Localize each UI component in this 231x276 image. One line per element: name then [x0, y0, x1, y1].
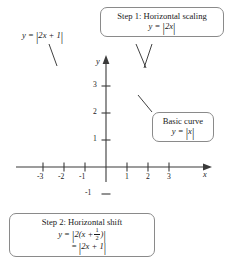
- step-2-equation-second-expr: 2x + 1: [81, 241, 104, 251]
- figure-canvas: x y -3 -2 -1 1 2 3 3 2 1 -1 y = |2x + 1|…: [0, 0, 231, 276]
- x-tick-label-2: 2: [146, 172, 150, 181]
- abs-bar-close-icon: |: [104, 244, 106, 253]
- abs-bar-close-icon: |: [192, 129, 194, 138]
- y-tick-label-neg1: -1: [85, 188, 91, 197]
- basic-curve-equation: y = |x|: [157, 126, 209, 137]
- abs-bar-close-icon: |: [103, 232, 105, 241]
- step-2-equation-prefix: 2(x +: [74, 229, 93, 239]
- x-tick-label-neg1: -1: [79, 172, 85, 181]
- basic-curve-callout[interactable]: Basic curve y = |x|: [152, 112, 214, 142]
- abs-bar-close-icon: |: [61, 33, 63, 42]
- basic-curve-caption: Basic curve: [157, 116, 209, 126]
- x-tick-label-3: 3: [167, 172, 171, 181]
- x-tick-label-1: 1: [125, 172, 129, 181]
- y-equals-abs-2x-plus-1-label: y = |2x + 1|: [22, 30, 63, 41]
- leader-line-left-label: [49, 44, 57, 66]
- y-tick-label-1: 1: [93, 134, 97, 143]
- basic-curve-equation-lhs: y =: [172, 126, 184, 136]
- one-half-fraction: 12: [94, 227, 99, 241]
- y-tick-label-3: 3: [93, 80, 97, 89]
- x-axis: [16, 164, 212, 171]
- step-1-equation: y = |2x|: [105, 21, 219, 32]
- y-axis-label: y: [96, 57, 100, 66]
- y-axis: [103, 55, 110, 182]
- step-2-equation-second-lhs: =: [72, 241, 77, 251]
- x-axis-label: x: [203, 170, 207, 179]
- abs-bar-close-icon: |: [173, 24, 175, 33]
- left-label-lhs: y =: [22, 30, 34, 40]
- step-1-caption: Step 1: Horizontal scaling: [105, 11, 219, 21]
- step-1-horizontal-scaling-callout[interactable]: Step 1: Horizontal scaling y = |2x|: [100, 7, 224, 37]
- step-2-horizontal-shift-callout[interactable]: Step 2: Horizontal shift y = |2(x +12)| …: [9, 213, 155, 257]
- step-2-caption: Step 2: Horizontal shift: [14, 217, 150, 227]
- x-tick-label-neg2: -2: [58, 172, 64, 181]
- y-tick-label-2: 2: [93, 107, 97, 116]
- leader-line-basic-curve: [138, 95, 152, 112]
- x-tick-label-neg3: -3: [37, 172, 43, 181]
- step-2-equation-line-1: y = |2(x +12)|: [14, 227, 150, 241]
- step-2-equation-lhs: y =: [58, 229, 70, 239]
- leader-line-step1-a: [136, 44, 146, 68]
- step-1-equation-lhs: y =: [149, 21, 161, 31]
- leader-line-step1-b: [144, 44, 152, 68]
- left-label-expr: 2x + 1: [38, 30, 61, 40]
- step-2-equation-line-2: = |2x + 1|: [14, 241, 150, 252]
- step-1-equation-expr: 2x: [165, 21, 173, 31]
